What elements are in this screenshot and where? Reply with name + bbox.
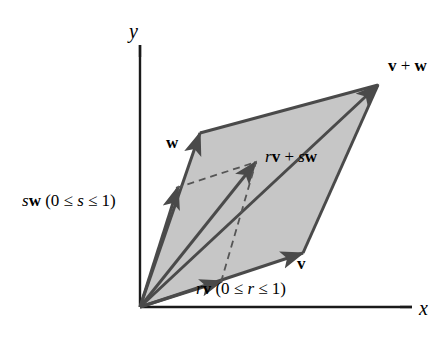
y-axis-label: y xyxy=(129,21,138,41)
sw-range-label: sw (0 ≤ s ≤ 1) xyxy=(22,192,116,209)
combo-plus-operator: + xyxy=(280,147,298,166)
combo-w-term: w xyxy=(305,147,317,166)
vector-sum-label: v + w xyxy=(388,57,427,74)
combination-point-label: rv + sw xyxy=(265,148,317,165)
sum-plus-operator: + xyxy=(397,56,415,75)
vector-v-label: v xyxy=(297,255,306,272)
rv-r-scalar: r xyxy=(196,279,203,298)
combo-s-scalar: s xyxy=(298,147,305,166)
sw-range-open: (0 ≤ xyxy=(41,191,77,210)
combo-v-term: v xyxy=(272,147,281,166)
rv-range-label: rv (0 ≤ r ≤ 1) xyxy=(196,280,286,297)
rv-range-close: ≤ 1) xyxy=(254,279,286,298)
combo-r-scalar: r xyxy=(265,147,272,166)
sw-range-variable: s xyxy=(77,191,84,210)
x-axis-label: x xyxy=(419,298,428,318)
vector-w-label: w xyxy=(166,134,178,151)
sw-range-close: ≤ 1) xyxy=(84,191,116,210)
sw-s-scalar: s xyxy=(22,191,29,210)
rv-range-variable: r xyxy=(247,279,254,298)
rv-range-open: (0 ≤ xyxy=(211,279,247,298)
sum-v-term: v xyxy=(388,56,397,75)
sw-w-term: w xyxy=(29,191,41,210)
vector-diagram-figure: y x w v v + w rv + sw sw (0 ≤ s ≤ 1) rv … xyxy=(0,0,447,340)
rv-v-term: v xyxy=(203,279,212,298)
sum-w-term: w xyxy=(415,56,427,75)
